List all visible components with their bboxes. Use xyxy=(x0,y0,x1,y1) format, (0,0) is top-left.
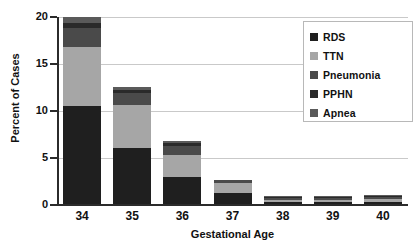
legend-item-label: PPHN xyxy=(323,88,353,100)
y-axis-tick-mark xyxy=(50,16,57,18)
legend-item-apnea[interactable]: Apnea xyxy=(310,103,412,122)
x-axis-title: Gestational Age xyxy=(57,228,408,240)
y-axis-tick-mark xyxy=(50,63,57,65)
x-axis-tick-label: 39 xyxy=(305,209,361,223)
bar-segment-ttn xyxy=(214,183,252,192)
x-axis-tick-label: 37 xyxy=(205,209,261,223)
bar-segment-pneumonia xyxy=(63,28,101,47)
legend-swatch-icon xyxy=(310,71,318,79)
legend-item-label: RDS xyxy=(323,31,345,43)
y-axis-tick-labels: 05101520 xyxy=(14,0,48,252)
x-axis-tick-label: 36 xyxy=(154,209,210,223)
bar-segment-rds xyxy=(113,148,151,205)
bar-34 xyxy=(63,17,101,205)
legend-item-label: Apnea xyxy=(323,107,356,119)
y-axis-tick-label: 0 xyxy=(20,199,48,210)
legend-swatch-icon xyxy=(310,33,318,41)
y-axis-tick-label: 10 xyxy=(20,105,48,116)
legend-item-pphn[interactable]: PPHN xyxy=(310,84,412,103)
bar-35 xyxy=(113,87,151,205)
bar-segment-rds xyxy=(63,106,101,205)
bar-segment-rds xyxy=(163,177,201,205)
x-axis-tick-label: 35 xyxy=(104,209,160,223)
legend-swatch-icon xyxy=(310,52,318,60)
bar-segment-pneumonia xyxy=(113,93,151,105)
bar-37 xyxy=(214,180,252,205)
legend-swatch-icon xyxy=(310,90,318,98)
legend-item-label: TTN xyxy=(323,50,344,62)
legend-item-ttn[interactable]: TTN xyxy=(310,46,412,65)
x-axis-line xyxy=(57,204,408,206)
gridline xyxy=(57,17,408,18)
x-axis-tick-label: 34 xyxy=(54,209,110,223)
bar-segment-ttn xyxy=(113,105,151,147)
legend-item-label: Pneumonia xyxy=(323,69,381,81)
y-axis-tick-label: 15 xyxy=(20,58,48,69)
y-axis-tick-mark xyxy=(50,204,57,206)
stacked-bar-chart: Percent of Cases 05101520 34353637383940… xyxy=(0,0,416,252)
legend-swatch-icon xyxy=(310,109,318,117)
legend-item-rds[interactable]: RDS xyxy=(310,27,412,46)
bar-segment-pneumonia xyxy=(163,146,201,155)
y-axis-tick-label: 20 xyxy=(20,11,48,22)
x-axis-tick-label: 40 xyxy=(355,209,411,223)
gridline xyxy=(57,158,408,159)
y-axis-line xyxy=(57,17,59,206)
bar-segment-ttn xyxy=(163,155,201,177)
bar-segment-ttn xyxy=(63,47,101,106)
y-axis-tick-mark xyxy=(50,110,57,112)
y-axis-tick-label: 5 xyxy=(20,152,48,163)
legend-item-pneumonia[interactable]: Pneumonia xyxy=(310,65,412,84)
bar-36 xyxy=(163,141,201,205)
x-axis-tick-label: 38 xyxy=(255,209,311,223)
chart-legend: RDSTTNPneumoniaPPHNApnea xyxy=(303,21,413,122)
y-axis-tick-mark xyxy=(50,157,57,159)
